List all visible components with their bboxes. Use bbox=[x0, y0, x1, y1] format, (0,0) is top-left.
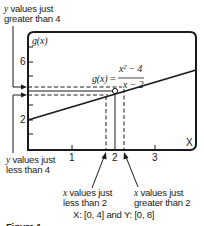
function-denominator: x − 2 bbox=[123, 80, 143, 90]
figure-caption: Figure 1 bbox=[6, 222, 41, 226]
window-range: X: [0, 4] and Y: [0, 8] bbox=[73, 210, 154, 220]
x-axis-label: X bbox=[186, 138, 192, 148]
function-numerator: x² − 4 bbox=[119, 64, 142, 74]
annotation-text: less than 4 bbox=[6, 164, 50, 175]
y-callouts bbox=[13, 26, 27, 153]
annotation-y-greater: y values just greater than 4 bbox=[4, 4, 60, 24]
x-guide-lines bbox=[106, 89, 124, 150]
y-axis-label: g(x) bbox=[32, 36, 47, 46]
x-tick-2: 2 bbox=[112, 153, 117, 163]
annotation-text: greater than 4 bbox=[4, 13, 60, 24]
annotation-x-less: x values just less than 2 bbox=[63, 188, 112, 208]
annotation-x-greater: x values just greater than 2 bbox=[134, 188, 190, 208]
x-tick-3: 3 bbox=[152, 153, 157, 163]
y-guide-lines bbox=[28, 87, 122, 95]
annotation-text: less than 2 bbox=[63, 197, 107, 208]
y-tick-2: 2 bbox=[20, 115, 25, 125]
hole-marker bbox=[112, 88, 117, 93]
annotation-y-less: y values just less than 4 bbox=[6, 155, 55, 175]
y-tick-6: 6 bbox=[20, 57, 25, 67]
x-tick-1: 1 bbox=[69, 153, 74, 163]
annotation-text: greater than 2 bbox=[134, 197, 190, 208]
function-lhs: g(x) = bbox=[92, 74, 116, 84]
